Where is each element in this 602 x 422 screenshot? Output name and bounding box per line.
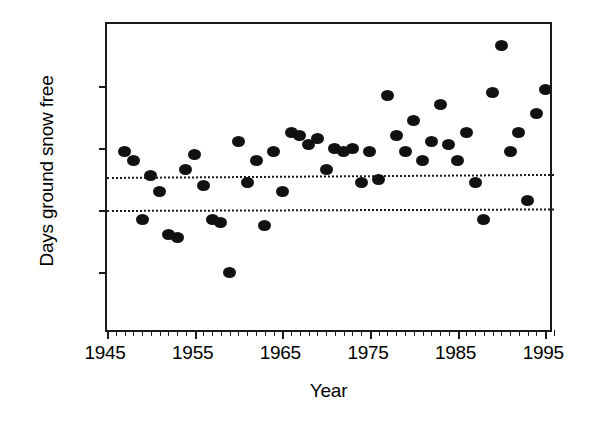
data-point [320,164,333,175]
x-tick-mark-minor [160,330,161,336]
x-tick-mark-minor [186,330,187,336]
data-point [399,146,412,157]
x-tick-mark-major [545,330,547,339]
x-tick-label: 1995 [498,342,588,364]
data-point [197,180,210,191]
data-point [171,232,184,243]
x-tick-mark-minor [484,330,485,336]
data-point [363,146,376,157]
x-tick-mark-major [195,330,197,339]
data-point [372,174,385,185]
x-tick-mark-major [458,330,460,339]
y-tick-mark [99,148,107,150]
x-tick-mark-minor [431,330,432,336]
x-tick-mark-minor [274,330,275,336]
x-tick-mark-minor [212,330,213,336]
x-tick-mark-minor [142,330,143,336]
data-point [232,136,245,147]
y-tick-mark [99,86,107,88]
scatter-plot-figure: Days ground snow free 406080100120140 19… [0,0,602,422]
data-point [258,220,271,231]
x-tick-mark-major [107,330,109,339]
data-point [504,146,517,157]
x-tick-mark-minor [326,330,327,336]
x-tick-label: 1965 [235,342,325,364]
data-point [188,149,201,160]
x-tick-mark-minor [300,330,301,336]
data-point [311,133,324,144]
x-tick-mark-minor [116,330,117,336]
x-tick-label: 1985 [411,342,501,364]
x-tick-mark-minor [440,330,441,336]
data-point [521,195,534,206]
x-tick-mark-minor [387,330,388,336]
data-point [416,155,429,166]
x-tick-mark-minor [536,330,537,336]
x-tick-mark-minor [177,330,178,336]
x-tick-mark-minor [133,330,134,336]
data-point [136,214,149,225]
x-tick-mark-minor [554,330,555,336]
x-tick-label: 1955 [148,342,238,364]
data-point [425,136,438,147]
data-point [179,164,192,175]
x-tick-mark-minor [238,330,239,336]
x-tick-mark-minor [414,330,415,336]
data-point [267,146,280,157]
x-tick-mark-minor [256,330,257,336]
x-tick-mark-minor [125,330,126,336]
data-point [250,155,263,166]
data-point [486,87,499,98]
data-point [539,84,550,95]
x-tick-mark-minor [423,330,424,336]
data-point [512,127,525,138]
data-point [214,217,227,228]
data-point [223,267,236,278]
data-point [477,214,490,225]
x-tick-mark-minor [344,330,345,336]
x-tick-mark-minor [405,330,406,336]
x-tick-mark-minor [203,330,204,336]
plot-area [105,22,552,332]
x-tick-mark-minor [493,330,494,336]
data-point [355,177,368,188]
x-tick-mark-minor [151,330,152,336]
x-tick-mark-major [282,330,284,339]
x-tick-mark-minor [379,330,380,336]
x-tick-mark-minor [265,330,266,336]
x-tick-label: 1945 [60,342,150,364]
data-point [407,115,420,126]
data-point [469,177,482,188]
data-point [241,177,254,188]
x-tick-mark-minor [396,330,397,336]
x-tick-mark-minor [247,330,248,336]
x-tick-mark-minor [510,330,511,336]
x-tick-mark-minor [475,330,476,336]
x-tick-label: 1975 [323,342,413,364]
data-point [530,108,543,119]
data-point [390,130,403,141]
data-point [442,139,455,150]
data-point [144,170,157,181]
x-tick-mark-minor [335,330,336,336]
x-tick-mark-minor [317,330,318,336]
y-tick-mark [99,272,107,274]
y-tick-mark [99,210,107,212]
x-tick-mark-minor [361,330,362,336]
data-point [434,99,447,110]
data-point [276,186,289,197]
x-tick-mark-minor [352,330,353,336]
x-tick-mark-minor [221,330,222,336]
x-tick-mark-minor [501,330,502,336]
x-tick-mark-minor [291,330,292,336]
x-tick-mark-minor [309,330,310,336]
data-point [451,155,464,166]
data-point [346,143,359,154]
data-point [153,186,166,197]
x-tick-mark-minor [449,330,450,336]
x-tick-mark-minor [230,330,231,336]
data-point [460,127,473,138]
data-point [127,155,140,166]
x-tick-mark-minor [528,330,529,336]
x-tick-mark-minor [168,330,169,336]
